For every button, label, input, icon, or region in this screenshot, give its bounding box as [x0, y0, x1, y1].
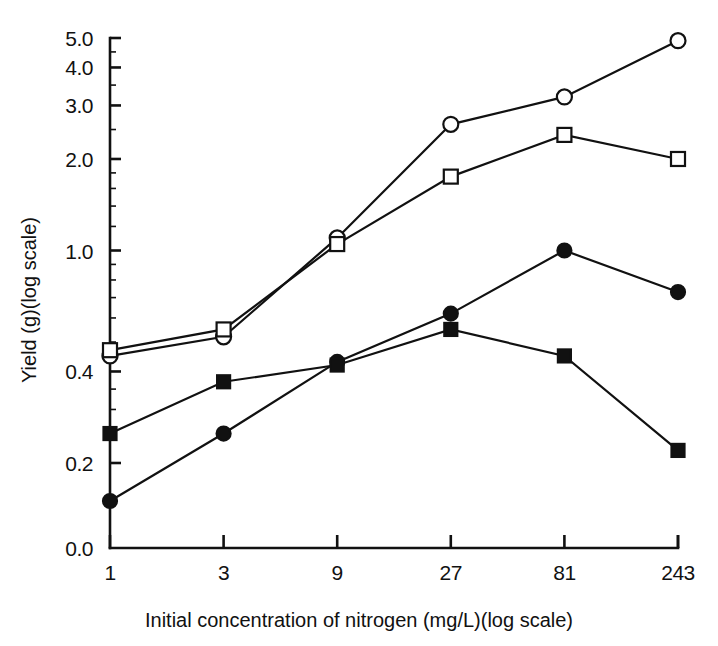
x-tick-label: 3 [218, 561, 229, 584]
data-point-filled-circle [217, 427, 231, 441]
data-series-group [103, 33, 686, 508]
data-point-open-square [103, 343, 117, 357]
data-point-open-square [671, 152, 685, 166]
data-point-open-square [217, 322, 231, 336]
data-point-open-circle [671, 33, 686, 48]
x-tick-label: 9 [332, 561, 343, 584]
axes-group [110, 38, 678, 548]
x-axis-tick-labels: 1392781243 [104, 561, 694, 584]
data-point-filled-square [444, 323, 457, 336]
data-point-filled-square [331, 359, 344, 372]
y-tick-label: 1.0 [65, 240, 93, 263]
x-axis-ticks [110, 535, 678, 548]
series-line [110, 135, 678, 350]
data-point-filled-circle [557, 244, 571, 258]
x-tick-label: 27 [440, 561, 462, 584]
data-point-open-circle [557, 89, 572, 104]
series-line [110, 329, 678, 450]
data-point-open-square [444, 170, 458, 184]
data-point-filled-circle [103, 494, 117, 508]
x-tick-label: 81 [553, 561, 575, 584]
x-tick-label: 1 [104, 561, 115, 584]
series-open-circle-series [103, 33, 686, 363]
y-tick-label: 3.0 [65, 94, 93, 117]
y-tick-label: 0.2 [65, 452, 93, 475]
chart-figure: 0.00.20.41.02.03.04.05.0 1392781243 Init… [0, 0, 718, 646]
y-tick-label: 5.0 [65, 27, 93, 50]
y-tick-label: 4.0 [65, 56, 93, 79]
y-axis-title: Yield (g)(log scale) [18, 217, 40, 383]
series-filled-circle-series [103, 244, 685, 508]
y-axis-tick-labels: 0.00.20.41.02.03.04.05.0 [65, 27, 94, 560]
series-line [110, 251, 678, 501]
data-point-filled-circle [444, 307, 458, 321]
data-point-filled-square [672, 444, 685, 457]
series-open-square-series [103, 128, 685, 357]
data-point-open-square [330, 237, 344, 251]
y-tick-label: 2.0 [65, 148, 93, 171]
data-point-filled-square [104, 427, 117, 440]
series-line [110, 41, 678, 356]
x-tick-label: 243 [661, 561, 695, 584]
data-point-open-circle [443, 117, 458, 132]
data-point-open-square [557, 128, 571, 142]
data-point-filled-square [217, 375, 230, 388]
x-axis-title: Initial concentration of nitrogen (mg/L)… [145, 609, 573, 631]
data-point-filled-square [558, 349, 571, 362]
chart-canvas: 0.00.20.41.02.03.04.05.0 1392781243 Init… [0, 0, 718, 646]
data-point-filled-circle [671, 285, 685, 299]
y-tick-label: 0.0 [65, 537, 93, 560]
y-axis-ticks [110, 52, 121, 463]
y-tick-label: 0.4 [65, 360, 94, 383]
